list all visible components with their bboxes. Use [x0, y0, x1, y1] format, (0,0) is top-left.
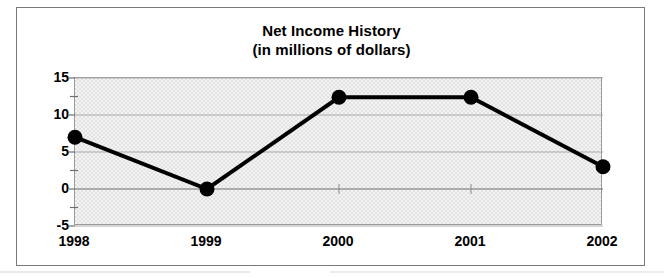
chart-figure: Net Income History (in millions of dolla…: [0, 0, 664, 278]
y-tick-label--5: -5: [23, 218, 69, 232]
chart-frame: Net Income History (in millions of dolla…: [16, 7, 645, 266]
data-point-2001: [464, 90, 479, 105]
x-axis-tick-labels: 19981999200020012002: [74, 233, 602, 253]
x-tick-label-1999: 1999: [171, 233, 241, 249]
data-point-1999: [200, 182, 215, 197]
data-point-1998: [68, 130, 83, 145]
y-tick-label-5: 5: [23, 144, 69, 158]
data-point-markers: [68, 90, 611, 197]
plot-area: [74, 77, 602, 225]
y-tick-label-15: 15: [23, 70, 69, 84]
data-line-net-income: [75, 97, 603, 189]
chart-title: Net Income History: [17, 21, 646, 40]
y-tick-label-0: 0: [23, 181, 69, 195]
chart-subtitle: (in millions of dollars): [17, 40, 646, 59]
data-point-2000: [332, 90, 347, 105]
chart-title-block: Net Income History (in millions of dolla…: [17, 21, 646, 59]
data-point-2002: [596, 159, 611, 174]
x-tick-label-1998: 1998: [39, 233, 109, 249]
scan-artifact-right: [330, 271, 664, 273]
scan-artifact-left: [0, 271, 250, 273]
y-axis-tick-labels: 151050-5: [17, 77, 69, 225]
x-tick-label-2000: 2000: [303, 233, 373, 249]
y-tick-label-10: 10: [23, 107, 69, 121]
x-tick-label-2002: 2002: [567, 233, 637, 249]
plot-canvas: [75, 78, 603, 226]
x-tick-label-2001: 2001: [435, 233, 505, 249]
